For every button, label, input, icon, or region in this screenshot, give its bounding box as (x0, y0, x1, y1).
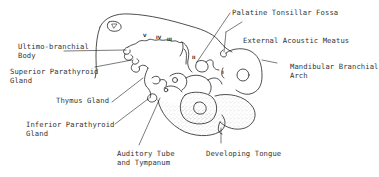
mandibular-arch-circle (237, 69, 249, 81)
arch-numeral-ii: II (192, 55, 196, 60)
label-thymus-gland: Thymus Gland (56, 97, 109, 106)
label-superior-parathyroid: Superior Parathyroid Gland (10, 68, 99, 85)
mandibular-arch (226, 49, 262, 95)
label-palatine-tonsillar-fossa: Palatine Tonsillar Fossa (232, 9, 338, 18)
otic-placode (107, 21, 121, 31)
arch-numeral-v: V (143, 33, 147, 38)
external-meatus (220, 50, 226, 57)
arch-numeral-iv: IV (156, 35, 162, 40)
label-ultimo-branchial: Ultimo-branchial Body (18, 43, 89, 60)
head-outline (100, 14, 232, 52)
pharyngeal-floor (128, 39, 183, 56)
arch-numeral-i: I (222, 70, 224, 75)
label-auditory-tube: Auditory Tube and Tympanum (117, 150, 175, 167)
label-external-acoustic-meatus: External Acoustic Meatus (243, 37, 349, 46)
superior-parathyroid (132, 59, 139, 64)
inferior-parathyroid (147, 94, 156, 102)
label-mandibular-arch: Mandibular Branchial Arch (290, 63, 379, 80)
arch-numeral-iii: III (167, 37, 172, 42)
tongue-central (180, 92, 216, 124)
label-inferior-parathyroid: Inferior Parathyroid Gland (26, 121, 115, 138)
thymus-gland (145, 68, 151, 98)
label-developing-tongue: Developing Tongue (206, 150, 281, 159)
ultimobranchial-body (124, 47, 131, 54)
